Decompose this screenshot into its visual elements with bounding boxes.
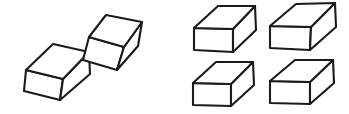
cube-left-face [194,28,233,52]
cube-figure-container [0,0,349,114]
cube-left-face [193,83,231,106]
cube-left-face [270,81,310,104]
cube-figure-canvas [0,0,349,114]
cube-left-face [270,26,311,50]
